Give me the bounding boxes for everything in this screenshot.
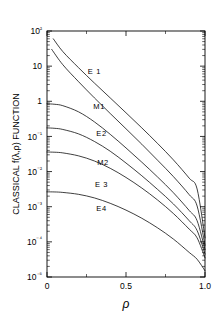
curve-label-e2: E2 — [96, 129, 106, 138]
y-tick-label: 10² — [31, 26, 42, 37]
y-tick-label: 10⁻² — [28, 166, 42, 177]
curve-m1 — [52, 49, 205, 245]
curve-e3 — [47, 152, 205, 258]
curve-e4 — [47, 192, 205, 271]
curve-m2 — [47, 128, 205, 254]
x-axis-tick-labels: 00.51.0 — [45, 281, 212, 291]
svg-text:CLASSICAL f(λ,ρ) FUNCTION: CLASSICAL f(λ,ρ) FUNCTION — [11, 93, 21, 214]
y-tick-label: 1 — [37, 96, 42, 106]
curve-e2 — [47, 104, 205, 250]
curve-e1 — [53, 39, 205, 238]
y-tick-label: 10⁻⁵ — [27, 272, 42, 283]
x-tick-label: 0.5 — [120, 281, 132, 291]
y-tick-label: 10 — [33, 61, 43, 71]
curve-label-e3: E 3 — [95, 180, 108, 189]
y-tick-label: 10⁻¹ — [28, 131, 42, 142]
curve-label-e1: E 1 — [88, 67, 101, 76]
curve-label-e4: E4 — [96, 204, 106, 213]
svg-text:ρ: ρ — [122, 297, 130, 311]
curve-label-m2: M2 — [97, 158, 109, 167]
classical-f-function-chart: 10²10110⁻¹10⁻²10⁻³10⁻⁴10⁻⁵ 00.51.0 E 1M1… — [0, 0, 222, 317]
y-axis-title: CLASSICAL f(λ,ρ) FUNCTION — [11, 93, 21, 214]
curve-label-m1: M1 — [93, 102, 105, 111]
y-tick-label: 10⁻⁴ — [27, 236, 42, 247]
figure-container: 10²10110⁻¹10⁻²10⁻³10⁻⁴10⁻⁵ 00.51.0 E 1M1… — [0, 0, 222, 317]
data-curves — [47, 39, 205, 271]
x-tick-label: 1.0 — [199, 281, 211, 291]
y-tick-label: 10⁻³ — [28, 201, 42, 212]
x-axis-title: ρ — [122, 297, 130, 311]
x-tick-label: 0 — [45, 281, 50, 291]
y-axis-tick-labels: 10²10110⁻¹10⁻²10⁻³10⁻⁴10⁻⁵ — [27, 26, 43, 283]
